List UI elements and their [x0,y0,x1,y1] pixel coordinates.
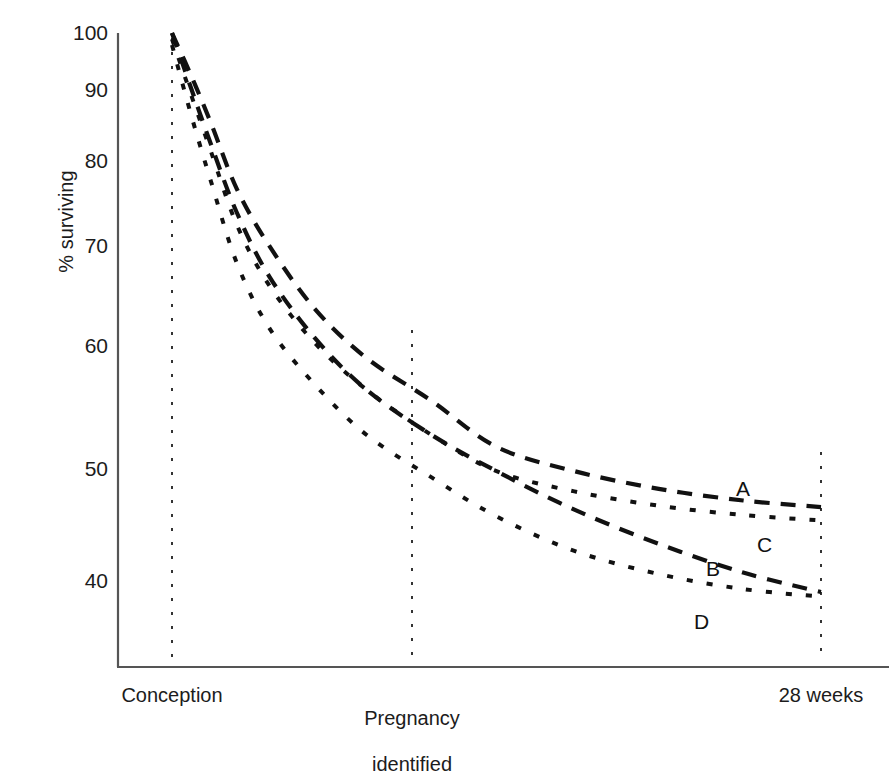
x-tick-conception: Conception [112,684,232,707]
series-label-a: A [736,478,750,499]
x-tick-pregnancy-identified: Pregnancy identified [352,684,472,775]
series-label-c: C [757,534,772,555]
x-tick-28-weeks: 28 weeks [761,684,881,707]
series-line-a [172,33,821,507]
series-line-d [172,45,821,597]
series-label-b: B [706,558,720,579]
series-label-d: D [694,611,709,632]
x-tick-pregnancy-line1: Pregnancy [352,707,472,730]
x-tick-pregnancy-line2: identified [352,753,472,775]
series-line-b [172,33,821,592]
